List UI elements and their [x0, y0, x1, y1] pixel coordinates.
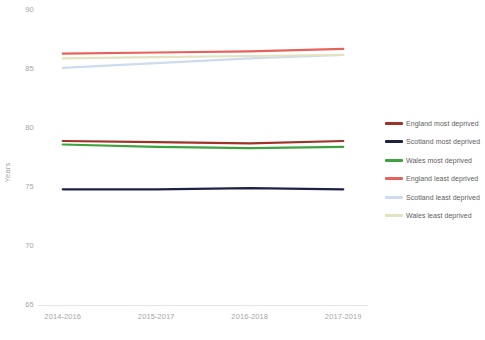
y-axis-tick-85: 85 [8, 65, 34, 73]
y-axis-title: Years [3, 150, 12, 196]
legend-item-label: Scotland least deprived [406, 194, 480, 201]
series-line-wales-most-deprived [63, 145, 344, 149]
x-axis-tick-2016-2018: 2016-2018 [213, 312, 287, 321]
legend-item-label: Wales least deprived [406, 212, 472, 219]
legend-item-england-most-deprived[interactable]: England most deprived [385, 114, 485, 133]
legend-swatch-icon [385, 177, 403, 180]
chart-legend: England most deprivedScotland most depri… [385, 114, 485, 225]
legend-swatch-icon [385, 140, 403, 143]
legend-swatch-icon [385, 214, 403, 217]
legend-swatch-icon [385, 196, 403, 199]
y-axis-tick-65: 65 [8, 301, 34, 309]
y-axis-tick-90: 90 [8, 6, 34, 14]
y-axis-tick-70: 70 [8, 242, 34, 250]
legend-swatch-icon [385, 159, 403, 162]
legend-item-label: England least deprived [406, 175, 478, 182]
series-line-england-most-deprived [63, 141, 344, 143]
legend-item-scotland-least-deprived[interactable]: Scotland least deprived [385, 188, 485, 207]
legend-item-label: Wales most deprived [406, 157, 472, 164]
x-axis-tick-2017-2019: 2017-2019 [306, 312, 380, 321]
series-line-scotland-most-deprived [63, 188, 344, 189]
legend-item-label: Scotland most deprived [406, 138, 480, 145]
y-axis-tick-80: 80 [8, 124, 34, 132]
plot-area [38, 10, 368, 305]
x-axis-tick-2015-2017: 2015-2017 [119, 312, 193, 321]
legend-item-label: England most deprived [406, 120, 479, 127]
legend-item-scotland-most-deprived[interactable]: Scotland most deprived [385, 133, 485, 152]
y-axis-tick-75: 75 [8, 183, 34, 191]
series-lines-svg [38, 10, 368, 305]
x-axis-tick-2014-2016: 2014-2016 [26, 312, 100, 321]
x-axis-line [38, 305, 368, 306]
life-expectancy-line-chart: 908580757065 Years 2014-20162015-2017201… [0, 0, 485, 340]
legend-item-wales-most-deprived[interactable]: Wales most deprived [385, 151, 485, 170]
legend-item-wales-least-deprived[interactable]: Wales least deprived [385, 207, 485, 226]
legend-item-england-least-deprived[interactable]: England least deprived [385, 170, 485, 189]
legend-swatch-icon [385, 122, 403, 125]
series-line-england-least-deprived [63, 49, 344, 54]
x-axis-tick-labels: 2014-20162015-20172016-20182017-2019 [38, 312, 368, 328]
